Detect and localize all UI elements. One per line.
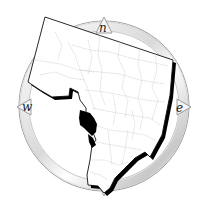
east-label: e: [176, 101, 183, 115]
locator-map: n w e: [0, 0, 204, 207]
west-label: w: [22, 100, 33, 114]
north-label: n: [99, 21, 107, 35]
map-canvas: n w e: [0, 0, 204, 207]
